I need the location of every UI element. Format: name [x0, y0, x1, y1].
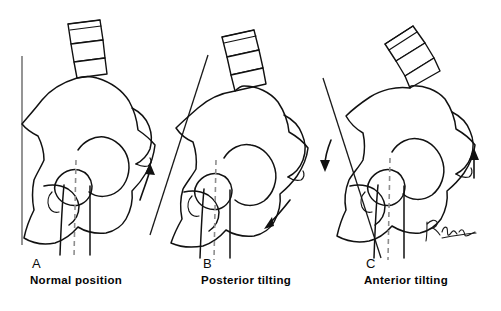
panel-b-ischium-down-arrow: [264, 200, 290, 229]
panel-a-femoral-axis: [74, 160, 76, 258]
panel-c-vertebrae: [385, 26, 440, 88]
panel-a-ilium: [22, 77, 155, 244]
panel-c-femoral-axis: [388, 158, 390, 260]
panel-c-reference-line: [323, 78, 381, 258]
pelvic-tilting-figure: A Normal position B Posterior tilting C …: [0, 0, 501, 311]
panel-c-ilium: [337, 86, 475, 242]
panel-b-ilium: [171, 86, 308, 247]
panel-b-asis-up-arrow: [140, 163, 155, 200]
panel-b-letter: B: [203, 256, 212, 271]
panel-b-vertebrae: [222, 30, 266, 91]
panel-c-asis-down-arrow: [320, 140, 331, 172]
panel-a-letter: A: [32, 256, 41, 271]
panel-c-illustration: [320, 26, 479, 260]
panel-c-label: Anterior tilting: [364, 274, 448, 286]
panel-c-femoral-head: [368, 169, 405, 205]
panel-a-femoral-head: [55, 169, 92, 205]
panel-b-label: Posterior tilting: [201, 274, 291, 286]
panel-b-illustration: [140, 30, 308, 260]
panel-a-acetabulum: [78, 137, 129, 197]
panel-a-illustration: [22, 20, 155, 258]
panel-b-femur-shaft: [200, 189, 204, 258]
panel-b-reference-line: [150, 55, 208, 235]
panel-c-acetabulum: [392, 139, 444, 200]
artist-signature: [426, 220, 476, 241]
panel-c-letter: C: [366, 256, 376, 271]
panel-a-femur-shaft: [60, 185, 64, 255]
panel-a-label: Normal position: [30, 274, 122, 286]
panel-a-vertebrae: [68, 20, 107, 78]
